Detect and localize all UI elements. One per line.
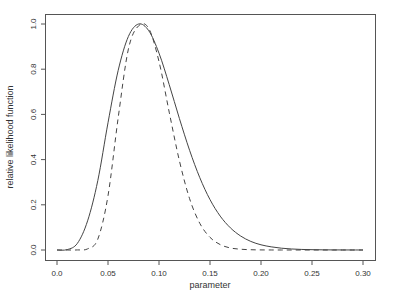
x-tick-label: 0.15: [202, 269, 218, 278]
y-tick-label: 0.4: [29, 153, 38, 165]
x-tick-label: 0.05: [100, 269, 116, 278]
y-tick-label: 0.6: [29, 108, 38, 120]
y-tick-label: 1.0: [29, 18, 38, 30]
y-tick-label: 0.2: [29, 199, 38, 211]
plot-frame: [46, 15, 376, 261]
x-axis-label: parameter: [189, 280, 230, 290]
x-tick-label: 0.0: [51, 269, 63, 278]
y-tick-label: 0.8: [29, 63, 38, 75]
x-tick-label: 0.10: [151, 269, 167, 278]
x-tick-label: 0.20: [253, 269, 269, 278]
x-tick-label: 0.30: [355, 269, 371, 278]
likelihood-chart: 0.00.050.100.150.200.250.30 0.00.20.40.6…: [0, 0, 396, 302]
series-group: [57, 24, 363, 251]
y-axis-label: relative likelihood function: [5, 85, 15, 188]
x-axis: 0.00.050.100.150.200.250.30: [51, 261, 371, 278]
y-axis: 0.00.20.40.60.81.0: [29, 18, 45, 256]
solid-curve: [57, 24, 363, 250]
y-tick-label: 0.0: [29, 244, 38, 256]
dashed-curve: [57, 24, 363, 250]
x-tick-label: 0.25: [304, 269, 320, 278]
